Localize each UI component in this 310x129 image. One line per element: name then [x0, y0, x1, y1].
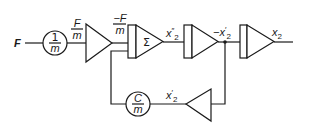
label-f-over-m: F m: [71, 17, 83, 41]
wire-feedback-right: [211, 42, 225, 104]
diagram-canvas: F 1 m F m −F m Σ x″2 −x′2 x2: [0, 0, 310, 129]
integrator-2: [240, 25, 274, 58]
wire-feedback-left: [111, 51, 128, 104]
gain-one-over-m: 1 m: [43, 31, 67, 55]
block-diagram: F 1 m F m −F m Σ x″2 −x′2 x2: [0, 0, 310, 129]
label-neg-f-over-m: −F m: [113, 12, 128, 36]
label-output-x2: x2: [271, 26, 283, 41]
input-label: F: [14, 37, 21, 49]
svg-text:m: m: [133, 103, 142, 115]
label-x2-prime: x′2: [165, 88, 178, 104]
svg-text:m: m: [72, 29, 81, 41]
feedback-inverter: [186, 89, 211, 121]
svg-text:m: m: [50, 42, 59, 54]
svg-text:m: m: [115, 24, 124, 36]
svg-text:F: F: [74, 17, 82, 29]
label-x2-double-prime: x″2: [165, 26, 179, 42]
svg-text:−F: −F: [113, 12, 127, 24]
sigma-symbol: Σ: [143, 36, 150, 49]
label-neg-x2-prime: −x′2: [213, 25, 231, 41]
gain-c-over-m: C m: [126, 92, 150, 116]
summing-integrator: Σ: [128, 25, 163, 58]
inverter-triangle-1: [86, 24, 112, 62]
